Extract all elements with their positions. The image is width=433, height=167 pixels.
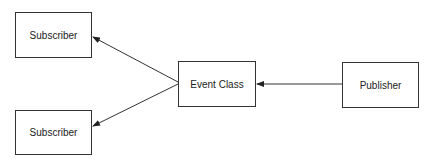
event-class-box: Event Class (178, 61, 256, 107)
subscriber-bottom-label: Subscriber (30, 127, 78, 138)
publisher-box: Publisher (342, 62, 419, 108)
arrow-event-class-to-subscriber-top (93, 37, 178, 82)
arrow-event-class-to-subscriber-bottom (93, 84, 178, 126)
subscriber-bottom-box: Subscriber (15, 110, 92, 155)
event-class-label: Event Class (190, 79, 243, 90)
subscriber-top-box: Subscriber (15, 12, 92, 58)
subscriber-top-label: Subscriber (30, 30, 78, 41)
publisher-label: Publisher (360, 80, 402, 91)
pubsub-diagram: Subscriber Subscriber Event Class Publis… (0, 0, 433, 167)
